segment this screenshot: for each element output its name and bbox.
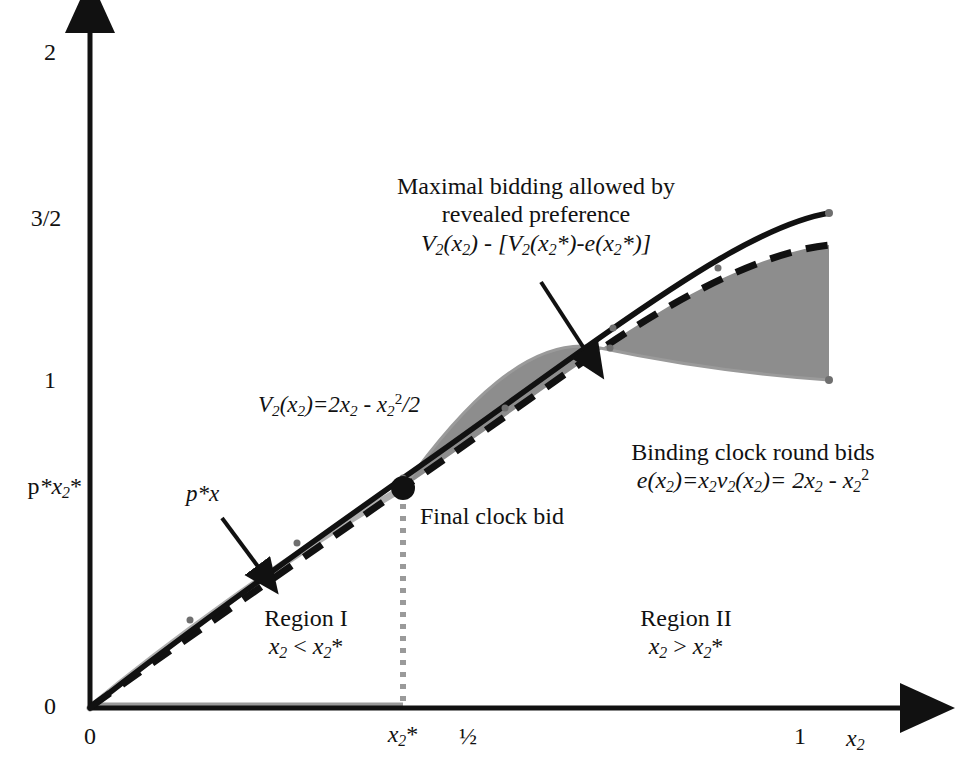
maximal-bidding-annotation: Maximal bidding allowed by revealed pref…: [336, 172, 736, 260]
region-ii-label: Region II x2 > x2*: [576, 604, 796, 663]
region-ii-title: Region II: [576, 604, 796, 632]
p-star-x-arrow: [222, 518, 262, 572]
region-i-condition: x2 < x2*: [196, 632, 416, 663]
curve-point: [294, 540, 301, 547]
curve-point: [825, 209, 833, 217]
y-tick-3-2: 3/2: [18, 204, 74, 232]
curve-point: [610, 325, 617, 332]
region-i-label: Region I x2 < x2*: [196, 604, 416, 663]
binding-clock-title: Binding clock round bids: [568, 438, 938, 466]
maximal-bidding-line2: revealed preference: [336, 200, 736, 228]
x-axis-label: x2: [846, 724, 865, 755]
plot-area: [0, 0, 957, 773]
curve-point: [187, 617, 194, 624]
y-tick-p-star-x-star: p*x2*: [0, 472, 82, 503]
maximal-bidding-formula: V2(x2) - [V2(x2*)-e(x2*)]: [336, 229, 736, 260]
binding-clock-formula: e(x2)=x2v2(x2)= 2x2 - x22: [568, 466, 938, 497]
final-clock-bid-marker[interactable]: [391, 476, 415, 500]
maximal-bidding-arrow: [541, 282, 589, 356]
curve-point: [502, 405, 509, 412]
region-ii-condition: x2 > x2*: [576, 632, 796, 663]
final-clock-bid-label: Final clock bid: [420, 502, 564, 530]
p-star-x-label: p*x: [186, 480, 219, 507]
binding-clock-annotation: Binding clock round bids e(x2)=x2v2(x2)=…: [568, 438, 938, 497]
x-tick-0: 0: [70, 722, 110, 750]
maximal-bidding-line1: Maximal bidding allowed by: [336, 172, 736, 200]
y-tick-2: 2: [30, 38, 70, 66]
v2-curve-label: V2(x2)=2x2 - x22/2: [258, 390, 420, 420]
curve-point: [825, 376, 833, 384]
x-tick-half: ½: [446, 722, 490, 750]
x-tick-1: 1: [780, 722, 820, 750]
y-tick-0: 0: [30, 692, 70, 720]
curve-point: [715, 265, 722, 272]
curve-point: [607, 345, 614, 352]
x-tick-x2-star: x2*: [372, 720, 434, 751]
y-tick-1: 1: [30, 366, 70, 394]
region-i-title: Region I: [196, 604, 416, 632]
figure-canvas: 2 3/2 1 p*x2* 0 0 x2* ½ 1 x2 Maximal bid…: [0, 0, 957, 773]
